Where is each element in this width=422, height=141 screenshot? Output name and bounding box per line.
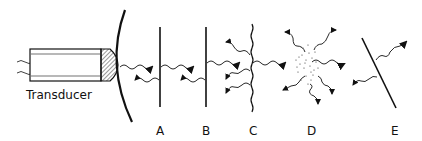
label-d: D — [307, 124, 316, 138]
label-b: B — [202, 124, 210, 138]
interface-c-rough — [251, 24, 253, 112]
label-a: A — [156, 124, 164, 138]
interface-e-oblique — [362, 38, 396, 108]
curved-interface — [116, 10, 132, 122]
label-e: E — [391, 124, 399, 138]
ultrasound-interaction-diagram — [0, 0, 422, 141]
label-c: C — [249, 124, 257, 138]
transducer-label: Transducer — [26, 88, 92, 102]
transducer — [17, 49, 118, 81]
scatter-region-d — [295, 44, 318, 84]
